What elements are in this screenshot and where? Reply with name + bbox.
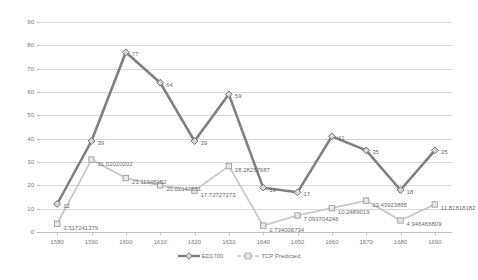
data-point-label: 59 <box>235 93 242 99</box>
series-layer <box>40 22 452 232</box>
data-point-label: 17.72727273 <box>201 192 236 198</box>
data-point-marker[interactable] <box>123 175 128 180</box>
series-line-ed1700 <box>57 52 435 204</box>
y-axis-tick-label: 70 <box>0 66 34 72</box>
y-axis-tick-label: 30 <box>0 159 34 165</box>
y-axis-tick-label: 90 <box>0 19 34 25</box>
data-point-marker[interactable] <box>329 205 334 210</box>
x-axis-tick-mark <box>229 232 230 235</box>
data-point-label: 19 <box>269 187 276 193</box>
x-axis-tick-mark <box>263 232 264 235</box>
data-point-label: 35 <box>441 149 448 155</box>
data-point-label: 20.02147651 <box>166 186 201 192</box>
x-axis-tick-mark <box>401 232 402 235</box>
data-point-label: 39 <box>201 140 208 146</box>
y-axis-tick-label: 0 <box>0 229 34 235</box>
legend-swatch-tcp-predicted <box>237 252 259 260</box>
data-point-marker[interactable] <box>260 184 267 191</box>
data-point-label: 28.28257687 <box>235 167 270 173</box>
data-point-label: 4.946466809 <box>407 221 442 227</box>
data-point-label: 64 <box>166 82 173 88</box>
data-point-marker[interactable] <box>54 221 59 226</box>
data-point-marker[interactable] <box>295 213 300 218</box>
data-point-label: 10.2489019 <box>338 209 370 215</box>
x-axis-tick-mark <box>92 232 93 235</box>
data-point-label: 77 <box>132 51 139 57</box>
data-point-label: 17 <box>304 191 311 197</box>
data-point-label: 41 <box>338 135 345 141</box>
data-point-marker[interactable] <box>363 198 368 203</box>
legend-swatch-ed1700 <box>178 252 200 260</box>
data-point-label: 18 <box>407 189 414 195</box>
y-axis-tick-label: 50 <box>0 112 34 118</box>
legend-item-tcp-predicted[interactable]: TCP Predicted <box>237 252 300 260</box>
data-point-label: 12 <box>63 203 70 209</box>
x-axis-tick-mark <box>160 232 161 235</box>
x-axis-tick-label: 1690 <box>415 239 455 245</box>
x-axis-tick-mark <box>126 232 127 235</box>
data-point-label: 2.734006734 <box>269 227 304 233</box>
legend-item-ed1700[interactable]: ED1700 <box>178 252 224 260</box>
data-point-marker[interactable] <box>398 218 403 223</box>
plot-area: 0102030405060708090 15801590160016101620… <box>40 22 452 232</box>
data-point-label: 31.02020202 <box>98 161 133 167</box>
y-axis-tick-mark <box>37 232 40 233</box>
data-point-marker[interactable] <box>89 157 94 162</box>
y-axis-tick-label: 20 <box>0 182 34 188</box>
data-point-label: 3.517241379 <box>63 225 98 231</box>
chart-legend: ED1700 TCP Predicted <box>0 252 478 260</box>
x-axis-tick-mark <box>366 232 367 235</box>
legend-label-tcp-predicted: TCP Predicted <box>261 253 300 259</box>
x-axis-tick-mark <box>435 232 436 235</box>
data-point-marker[interactable] <box>260 223 265 228</box>
data-point-label: 13.43923865 <box>372 202 407 208</box>
chart-container: 0102030405060708090 15801590160016101620… <box>0 0 478 280</box>
data-point-label: 7.093704246 <box>304 216 339 222</box>
legend-label-ed1700: ED1700 <box>202 253 224 259</box>
gridline <box>40 232 452 233</box>
y-axis-tick-label: 80 <box>0 42 34 48</box>
x-axis-tick-mark <box>57 232 58 235</box>
data-point-marker[interactable] <box>432 202 437 207</box>
y-axis-tick-label: 10 <box>0 206 34 212</box>
x-axis-tick-mark <box>332 232 333 235</box>
data-point-label: 23.11948052 <box>132 179 167 185</box>
y-axis-tick-label: 60 <box>0 89 34 95</box>
y-axis-tick-label: 40 <box>0 136 34 142</box>
data-point-marker[interactable] <box>226 163 231 168</box>
data-point-label: 39 <box>98 140 105 146</box>
data-point-label: 35 <box>372 149 379 155</box>
x-axis-tick-mark <box>195 232 196 235</box>
data-point-label: 11.81818182 <box>441 205 476 211</box>
